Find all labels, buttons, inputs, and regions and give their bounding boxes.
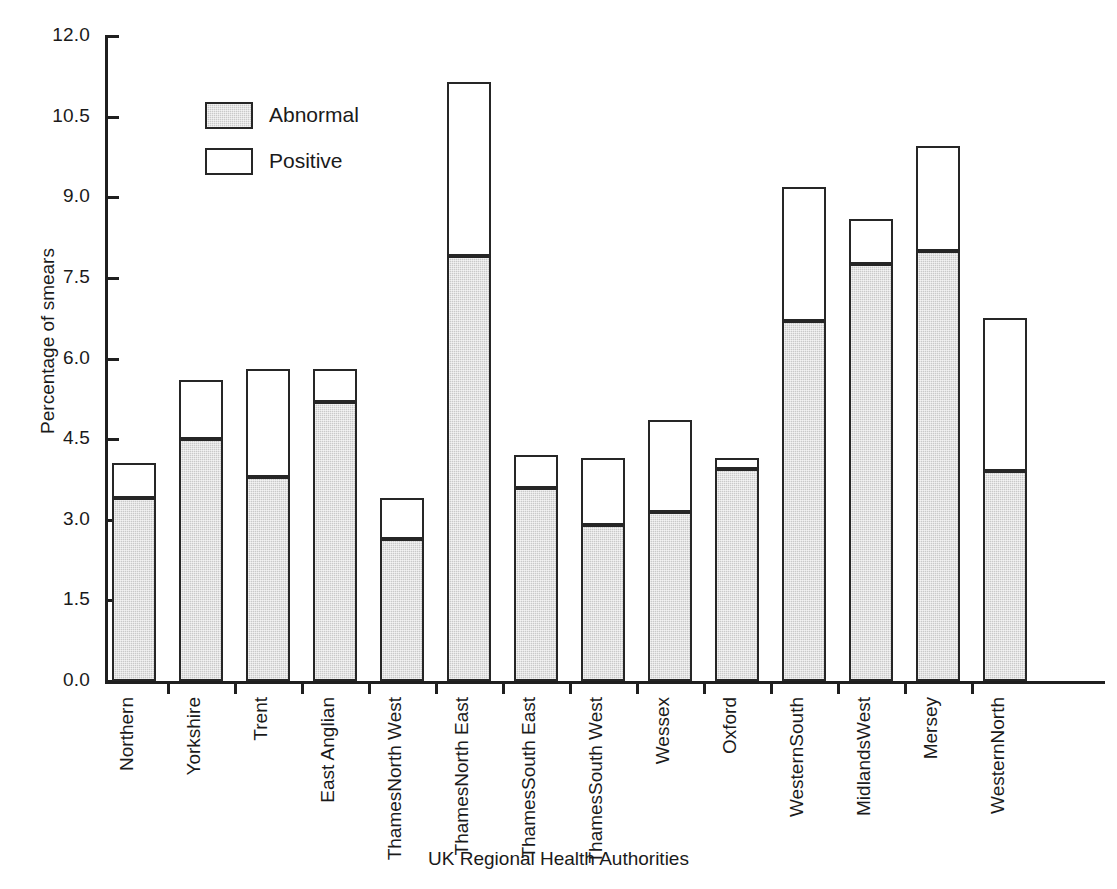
x-label-line: Trent — [250, 697, 271, 741]
x-label-line: South — [786, 697, 807, 747]
legend-swatch-positive — [205, 148, 253, 175]
x-label-line: Oxford — [719, 697, 740, 754]
x-label-line: Thames — [451, 787, 472, 856]
x-label-line: Northern — [116, 697, 137, 771]
x-label-line: Yorkshire — [183, 697, 204, 776]
x-axis-category-labels: NorthernYorkshireTrentEast AnglianNorth … — [0, 0, 1117, 889]
x-label-line: North West — [384, 697, 405, 792]
x-label-line: West — [853, 697, 874, 740]
legend-item-abnormal[interactable]: Abnormal — [205, 98, 359, 132]
x-label-line: East Anglian — [317, 697, 338, 803]
legend-swatch-abnormal — [205, 102, 253, 129]
x-label-line: South West — [585, 697, 606, 795]
legend-label: Positive — [269, 149, 343, 173]
x-label-line: Midlands — [853, 740, 874, 816]
x-label-line: Western — [786, 747, 807, 817]
x-label-line: Mersey — [920, 697, 941, 759]
x-label-line: Wessex — [652, 697, 673, 764]
x-label-line: North East — [451, 697, 472, 787]
legend-label: Abnormal — [269, 103, 359, 127]
x-label-line: South East — [518, 697, 539, 790]
legend: AbnormalPositive — [205, 98, 359, 190]
x-axis-title: UK Regional Health Authorities — [0, 848, 1117, 870]
legend-item-positive[interactable]: Positive — [205, 144, 359, 178]
x-label-line: North — [987, 697, 1008, 743]
chart-canvas: Percentage of smears 0.01.53.04.56.07.59… — [0, 0, 1117, 889]
x-label-line: Western — [987, 743, 1008, 813]
